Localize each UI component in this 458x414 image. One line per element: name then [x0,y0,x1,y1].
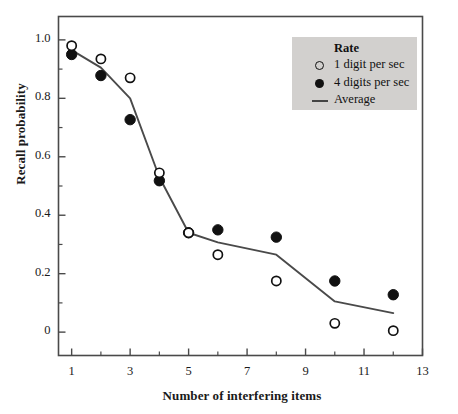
line-swatch-icon [312,100,328,102]
x-tick-label: 1 [57,364,87,379]
x-tick-label: 9 [291,364,321,379]
legend-item-1-digit-per-sec: 1 digit per sec [292,57,417,74]
x-tick-label: 7 [232,364,262,379]
legend-item-4-digits-per-sec: 4 digits per sec [292,75,417,92]
x-tick-label: 5 [174,364,204,379]
x-tick-label: 3 [115,364,145,379]
legend-label: 1 digit per sec [334,57,404,72]
legend-label: 4 digits per sec [334,75,409,90]
legend-title: Rate [334,41,359,56]
legend-label: Average [334,92,375,107]
y-tick-label: 0.4 [11,206,51,221]
x-axis-label: Number of interfering items [58,388,426,404]
legend: Rate 1 digit per sec 4 digits per sec Av… [292,37,417,110]
open-circle-icon [315,61,324,70]
filled-circle-icon [315,79,324,88]
legend-item-average: Average [292,92,417,109]
y-tick-label: 0 [11,323,51,338]
x-tick-label: 11 [349,364,379,379]
y-tick-label: 0.8 [11,89,51,104]
y-tick-label: 0.6 [11,148,51,163]
y-tick-label: 1.0 [11,31,51,46]
x-tick-label: 13 [408,364,438,379]
recall-probability-chart: Recall probability Number of interfering… [0,0,458,414]
y-tick-label: 0.2 [11,265,51,280]
